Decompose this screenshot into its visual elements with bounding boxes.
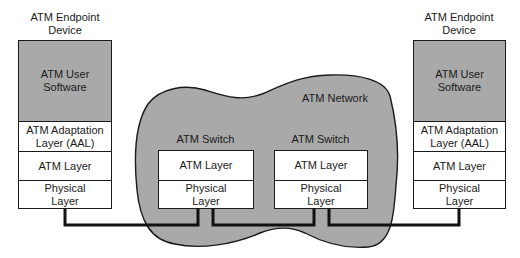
- left-physical-label-1: Physical: [45, 182, 86, 195]
- right-device-title: ATM Endpoint Device: [402, 11, 516, 37]
- left-device-stack: ATM User Software ATM Adaptation Layer (…: [18, 40, 112, 209]
- switch-1-atm-layer: ATM Layer: [159, 151, 253, 180]
- right-atm-layer-label: ATM Layer: [433, 160, 486, 173]
- switch-2-atm-layer-label: ATM Layer: [295, 159, 348, 172]
- right-aal-layer: ATM Adaptation Layer (AAL): [414, 121, 505, 151]
- right-device-stack: ATM User Software ATM Adaptation Layer (…: [413, 40, 506, 209]
- switch-1-atm-layer-label: ATM Layer: [180, 159, 233, 172]
- left-atm-layer-label: ATM Layer: [39, 160, 92, 173]
- left-device-title: ATM Endpoint Device: [8, 11, 122, 37]
- left-user-software-label-2: Software: [41, 81, 90, 94]
- right-physical-label-1: Physical: [439, 182, 480, 195]
- switch-2-physical-label-2: Layer: [301, 195, 342, 208]
- right-physical-layer: Physical Layer: [414, 180, 505, 208]
- atm-network-label: ATM Network: [290, 92, 380, 105]
- switch-1-physical-layer: Physical Layer: [159, 180, 253, 208]
- right-physical-label-2: Layer: [439, 195, 480, 208]
- switch-1-physical-label-2: Layer: [186, 195, 227, 208]
- right-atm-layer: ATM Layer: [414, 151, 505, 180]
- switch-1-title: ATM Switch: [158, 133, 253, 146]
- left-user-software-layer: ATM User Software: [19, 41, 111, 121]
- switch-2-physical-layer: Physical Layer: [275, 180, 367, 208]
- right-user-software-label-2: Software: [435, 81, 484, 94]
- left-device-title-line2: Device: [8, 24, 122, 37]
- right-aal-label-2: Layer (AAL): [421, 137, 498, 150]
- right-aal-label-1: ATM Adaptation: [421, 124, 498, 137]
- left-device-title-line1: ATM Endpoint: [8, 11, 122, 24]
- right-device-title-line1: ATM Endpoint: [402, 11, 516, 24]
- left-atm-layer: ATM Layer: [19, 151, 111, 180]
- left-physical-label-2: Layer: [45, 195, 86, 208]
- left-physical-layer: Physical Layer: [19, 180, 111, 208]
- left-aal-label-2: Layer (AAL): [26, 137, 103, 150]
- left-aal-label-1: ATM Adaptation: [26, 124, 103, 137]
- right-user-software-label-1: ATM User: [435, 68, 484, 81]
- switch-2-stack: ATM Layer Physical Layer: [274, 150, 368, 209]
- left-user-software-label-1: ATM User: [41, 68, 90, 81]
- switch-2-physical-label-1: Physical: [301, 182, 342, 195]
- right-device-title-line2: Device: [402, 24, 516, 37]
- right-user-software-layer: ATM User Software: [414, 41, 505, 121]
- switch-2-atm-layer: ATM Layer: [275, 151, 367, 180]
- left-aal-layer: ATM Adaptation Layer (AAL): [19, 121, 111, 151]
- switch-1-stack: ATM Layer Physical Layer: [158, 150, 254, 209]
- switch-1-physical-label-1: Physical: [186, 182, 227, 195]
- switch-2-title: ATM Switch: [273, 133, 368, 146]
